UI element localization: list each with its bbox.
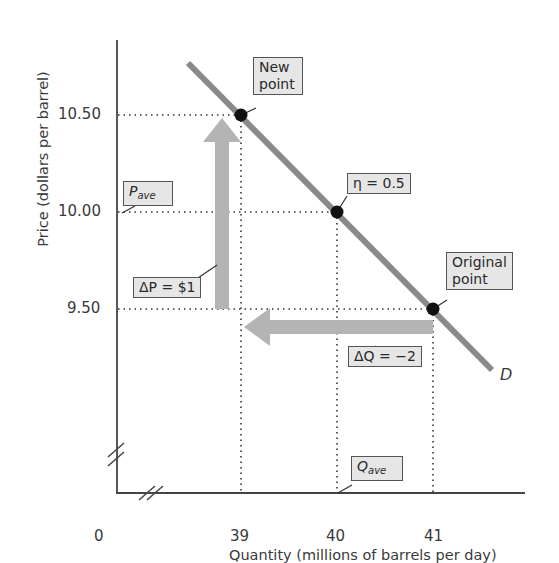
midpoint-marker (331, 206, 344, 219)
delta-q-arrow (244, 308, 433, 346)
delta-p-arrow (203, 118, 241, 309)
delta-p-label: ΔP = $1 (133, 277, 201, 298)
delta-q-label: ΔQ = −2 (348, 346, 422, 367)
original-point-label-line2: point (452, 271, 507, 288)
demand-label: D (500, 365, 512, 384)
x-tick-41: 41 (424, 527, 443, 545)
x-tick-39: 39 (230, 527, 249, 545)
x-axis-title: Quantity (millions of barrels per day) (229, 547, 497, 563)
new-point-label: New point (253, 57, 303, 95)
original-point-label: Original point (446, 252, 513, 290)
p-ave-label: Pave (123, 181, 173, 206)
x-tick-0: 0 (94, 527, 104, 545)
x-tick-40: 40 (326, 527, 345, 545)
original-point-marker (427, 303, 440, 316)
p-ave-sub: ave (137, 190, 155, 201)
y-tick-9-50: 9.50 (67, 299, 100, 317)
elasticity-label: η = 0.5 (347, 173, 411, 194)
guide-lines (118, 115, 433, 492)
q-ave-label: Qave (351, 456, 403, 481)
y-tick-10-50: 10.50 (58, 105, 101, 123)
original-point-label-line1: Original (452, 254, 507, 271)
q-ave-main: Q (357, 458, 368, 474)
new-point-label-line1: New (259, 59, 297, 76)
y-tick-10-00: 10.00 (58, 202, 101, 220)
q-ave-sub: ave (368, 465, 386, 476)
new-point-label-line2: point (259, 76, 297, 93)
y-axis-title: Price (dollars per barrel) (35, 64, 51, 254)
leader-lines (122, 108, 447, 493)
new-point-marker (235, 109, 248, 122)
